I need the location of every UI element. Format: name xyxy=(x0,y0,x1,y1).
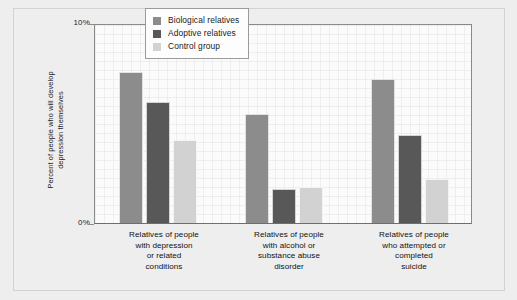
legend-item[interactable]: Adoptive relatives xyxy=(153,27,239,40)
bar xyxy=(425,179,449,223)
bar xyxy=(272,189,296,223)
bar xyxy=(371,79,395,223)
bar xyxy=(299,187,323,223)
legend-item[interactable]: Biological relatives xyxy=(153,14,239,27)
y-axis-tick-mark-bottom xyxy=(88,224,94,225)
bar xyxy=(146,102,170,223)
legend-item-label: Biological relatives xyxy=(168,15,239,26)
legend-item-label: Adoptive relatives xyxy=(168,28,236,39)
legend-item[interactable]: Control group xyxy=(153,40,239,53)
y-axis-tick-label-top: 10% xyxy=(66,18,90,27)
bar xyxy=(245,114,269,223)
bar xyxy=(119,72,143,223)
x-axis-category-label-3: Relatives of people who attempted or com… xyxy=(351,230,477,272)
bar xyxy=(398,135,422,223)
legend-item-label: Control group xyxy=(168,41,220,52)
x-axis-category-label-2: Relatives of people with alcohol or subs… xyxy=(226,230,352,272)
y-axis-title: Percent of people who will develop depre… xyxy=(46,30,66,230)
bar xyxy=(173,140,197,223)
y-axis-tick-label-bottom: 0% xyxy=(66,218,90,227)
legend-swatch-icon xyxy=(153,43,161,51)
legend-swatch-icon xyxy=(153,17,161,25)
x-axis-category-label-1: Relatives of people with depression or r… xyxy=(101,230,227,272)
chart-legend: Biological relativesAdoptive relativesCo… xyxy=(145,8,249,59)
chart-figure: Percent of people who will develop depre… xyxy=(0,0,517,300)
legend-swatch-icon xyxy=(153,30,161,38)
